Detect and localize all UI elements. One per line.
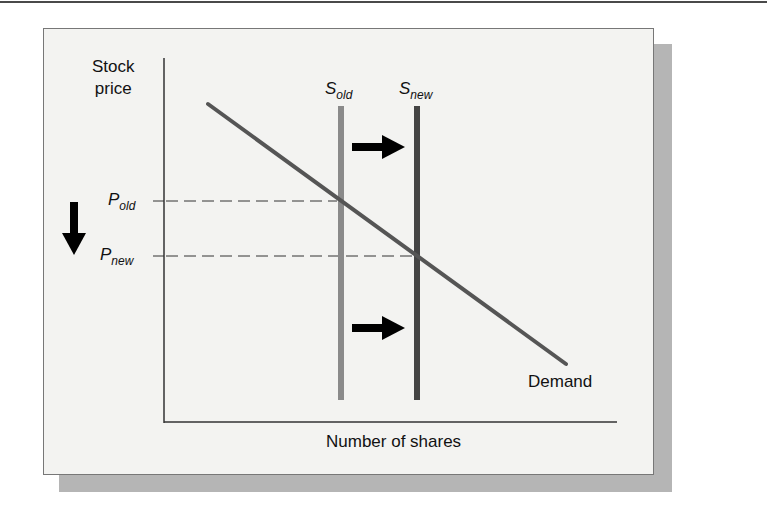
p-old-sub: old (119, 199, 135, 213)
p-old-label: Pold (108, 191, 135, 208)
y-axis-label: Stock price (92, 56, 135, 100)
s-old-main: S (325, 79, 336, 98)
p-new-sub: new (111, 254, 133, 268)
s-new-main: S (399, 79, 410, 98)
s-old-label: Sold (325, 80, 352, 97)
p-old-main: P (108, 190, 119, 209)
demand-label: Demand (528, 373, 592, 390)
s-old-sub: old (336, 88, 352, 102)
shift-right-arrow-bottom-icon (352, 316, 405, 340)
p-new-label: Pnew (100, 246, 133, 263)
y-axis-label-line2: price (92, 78, 135, 100)
shift-right-arrow-top-icon (352, 135, 405, 159)
price-down-arrow-icon (62, 202, 86, 255)
x-axis-label: Number of shares (326, 433, 461, 450)
y-axis-label-line1: Stock (92, 56, 135, 78)
p-new-main: P (100, 245, 111, 264)
s-new-label: Snew (399, 80, 432, 97)
s-new-sub: new (410, 88, 432, 102)
